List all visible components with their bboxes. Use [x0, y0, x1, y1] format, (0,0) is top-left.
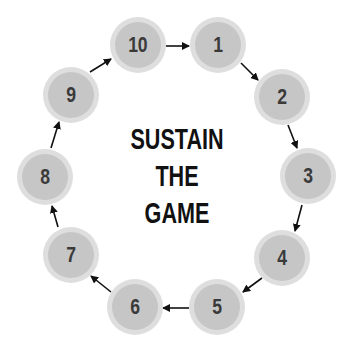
step-node-2: 2 — [254, 69, 310, 125]
step-label-6: 6 — [130, 294, 139, 320]
step-node-7: 7 — [43, 227, 99, 283]
step-node-4: 4 — [254, 230, 310, 286]
center-title: SUSTAIN THE GAME — [105, 120, 249, 231]
step-node-6: 6 — [107, 279, 163, 335]
arrow-8-to-9 — [51, 122, 59, 148]
step-label-3: 3 — [303, 163, 312, 189]
arrow-2-to-3 — [288, 125, 297, 148]
step-node-8: 8 — [17, 149, 73, 205]
arrow-1-to-2 — [241, 63, 258, 80]
step-node-10: 10 — [110, 17, 166, 73]
arrow-3-to-4 — [295, 205, 302, 231]
step-label-2: 2 — [277, 84, 286, 110]
step-node-3: 3 — [280, 148, 336, 204]
step-label-1: 1 — [213, 32, 222, 58]
arrow-6-to-7 — [91, 276, 111, 292]
title-line-1: SUSTAIN — [105, 120, 249, 157]
step-label-9: 9 — [66, 82, 75, 108]
arrow-9-to-10 — [90, 59, 111, 72]
arrow-7-to-8 — [52, 206, 58, 227]
title-line-3: GAME — [105, 194, 249, 231]
step-label-4: 4 — [277, 245, 286, 271]
step-label-10: 10 — [129, 32, 148, 58]
step-label-7: 7 — [66, 242, 75, 268]
step-label-8: 8 — [40, 164, 49, 190]
arrow-4-to-5 — [243, 278, 262, 292]
step-label-5: 5 — [212, 294, 221, 320]
step-node-1: 1 — [190, 17, 246, 73]
step-node-9: 9 — [43, 67, 99, 123]
title-line-2: THE — [105, 157, 249, 194]
step-node-5: 5 — [189, 279, 245, 335]
